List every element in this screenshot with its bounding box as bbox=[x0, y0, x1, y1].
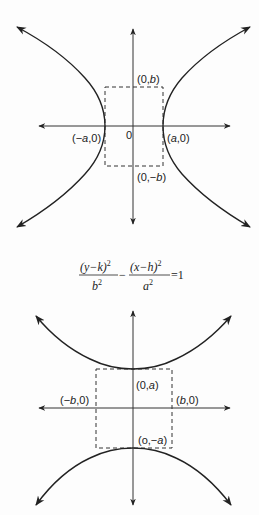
formula-denominator-2: a2 bbox=[143, 278, 153, 293]
label-vertex-left: (−a,0) bbox=[72, 132, 101, 144]
hyperbola-equation: (y−k)2 b2 − (x−h)2 a2 =1 bbox=[79, 259, 184, 293]
formula-equals: =1 bbox=[171, 268, 184, 282]
label-vertex-right: (a,0) bbox=[167, 132, 190, 144]
formula-minus: − bbox=[119, 268, 126, 282]
label-co-vertex-left: (−b,0) bbox=[60, 394, 89, 406]
hyperbola-figure: (0,b) 0 (−a,0) (a,0) (0,−b) (y−k)2 b2 − … bbox=[0, 0, 259, 515]
formula-denominator-1: b2 bbox=[92, 278, 102, 293]
top-diagram: (0,b) 0 (−a,0) (a,0) (0,−b) bbox=[17, 27, 250, 227]
top-left-branch bbox=[17, 27, 105, 227]
label-vertex-top: (0,a) bbox=[136, 379, 159, 391]
bottom-diagram: (0,a) (−b,0) (b,0) (o,−a) bbox=[36, 311, 231, 505]
label-vertex-bottom: (o,−a) bbox=[138, 434, 167, 446]
label-origin: 0 bbox=[126, 129, 132, 141]
label-co-vertex-top: (0,b) bbox=[137, 73, 160, 85]
top-right-branch bbox=[163, 27, 250, 227]
formula-numerator-2: (x−h)2 bbox=[130, 259, 161, 274]
label-co-vertex-bottom: (0,−b) bbox=[137, 171, 166, 183]
formula-numerator-1: (y−k)2 bbox=[80, 259, 111, 274]
label-co-vertex-right: (b,0) bbox=[176, 394, 199, 406]
